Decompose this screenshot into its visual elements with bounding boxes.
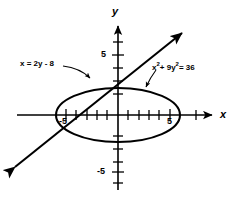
ellipse-label-leader	[146, 70, 156, 87]
line-curve	[15, 33, 182, 167]
x-axis-label: x	[220, 109, 226, 120]
ellipse-equation-label: x2+ 9y2= 36	[152, 64, 195, 72]
x-tick-label-neg-5: -5	[59, 117, 67, 126]
ellipse-eq-mid: + 9	[160, 63, 171, 72]
line-equation-label: x = 2y - 8	[20, 60, 54, 68]
x-tick-label-pos-5: 5	[167, 117, 172, 126]
y-tick-label-pos-5: 5	[101, 50, 106, 59]
ellipse-eq-end: = 36	[179, 63, 195, 72]
graph-figure: y x -5 5 5 -5 x = 2y - 8 x2+ 9y2= 36	[0, 0, 235, 198]
graph-canvas	[0, 0, 235, 198]
y-tick-label-neg-5: -5	[97, 167, 105, 176]
y-axis-label: y	[112, 6, 118, 17]
line-label-leader	[63, 66, 90, 78]
